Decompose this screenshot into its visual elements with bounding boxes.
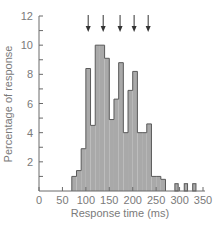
histogram-bar [156, 176, 161, 191]
histogram-bar [86, 69, 91, 192]
histogram-bar-small [175, 184, 178, 191]
x-tick-label: 0 [36, 194, 42, 206]
histogram-bar [100, 45, 105, 191]
chart-figure: 24681012050100150200250300350 Response t… [0, 0, 220, 228]
histogram-bar [95, 45, 100, 191]
histogram-bar [105, 58, 110, 191]
peak-arrows [86, 15, 151, 32]
histogram-bar [72, 176, 77, 191]
histogram-bar [81, 149, 86, 191]
x-tick-label: 100 [77, 194, 95, 206]
histogram-bar [133, 71, 138, 191]
x-tick-label: 250 [147, 194, 165, 206]
histogram-bar [161, 179, 166, 191]
histogram-bar-small [184, 184, 187, 191]
histogram-bar [147, 124, 152, 191]
histogram-bar [114, 99, 119, 191]
y-axis-label: Percentage of response [2, 46, 14, 163]
down-arrow-head-icon [86, 26, 91, 32]
histogram-bar [142, 133, 147, 191]
histogram-bar-small [193, 184, 196, 191]
down-arrow-head-icon [146, 26, 151, 32]
histogram-bar [151, 176, 156, 191]
histogram-bar [109, 120, 114, 191]
y-tick-label: 6 [27, 98, 33, 110]
down-arrow-head-icon [118, 26, 123, 32]
histogram-bar [128, 90, 133, 191]
histogram-bar [119, 63, 124, 191]
histogram-bar [123, 133, 128, 191]
y-tick-label: 10 [21, 39, 33, 51]
histogram-bar [91, 125, 96, 191]
x-tick-label: 350 [194, 194, 212, 206]
y-tick-label: 8 [27, 68, 33, 80]
y-tick-label: 2 [27, 156, 33, 168]
histogram-chart: 24681012050100150200250300350 Response t… [0, 0, 220, 228]
y-tick-label: 4 [27, 127, 33, 139]
y-tick-label: 12 [21, 10, 33, 22]
x-axis-label: Response time (ms) [71, 207, 169, 219]
x-tick-label: 50 [56, 194, 68, 206]
down-arrow-head-icon [101, 26, 106, 32]
x-tick-label: 200 [124, 194, 142, 206]
histogram-bar [137, 133, 142, 191]
down-arrow-head-icon [132, 26, 137, 32]
x-tick-label: 300 [170, 194, 188, 206]
histogram-bars [72, 45, 196, 191]
x-tick-label: 150 [100, 194, 118, 206]
histogram-bar [76, 171, 81, 191]
